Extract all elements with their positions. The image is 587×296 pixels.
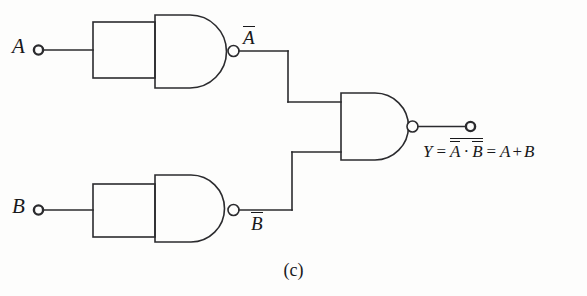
wire-label-not-a: A: [243, 26, 255, 47]
output-expression-plus: +: [513, 142, 523, 161]
figure-caption: (c): [0, 261, 587, 279]
wire-label-not-b-text: B: [251, 212, 263, 233]
input-terminal-a[interactable]: [34, 45, 43, 54]
output-expression-nand-term: A·B: [450, 138, 482, 160]
output-expression-equals-2: =: [487, 142, 497, 161]
output-expression-y: Y: [423, 142, 432, 161]
input-label-b: B: [12, 196, 25, 217]
wire-label-not-a-text: A: [243, 26, 255, 47]
nand-gate-top-body: [155, 15, 226, 88]
output-expression-dot: ·: [463, 142, 469, 161]
input-terminal-b[interactable]: [34, 205, 43, 214]
output-terminal-y[interactable]: [466, 122, 475, 131]
wire-label-not-b: B: [251, 212, 263, 233]
figure-canvas: A B A B Y=A·B=A+B (c): [0, 0, 587, 296]
output-expression-not-a: A: [450, 141, 460, 160]
output-expression-not-b: B: [472, 141, 482, 160]
output-expression-result-b: B: [524, 142, 534, 161]
output-expression: Y=A·B=A+B: [423, 138, 534, 160]
nand-gate-top-bubble: [228, 46, 239, 57]
input-label-a: A: [12, 36, 25, 57]
bottom-gate-input-short-bar: [93, 184, 155, 237]
output-expression-result-a: A: [500, 142, 510, 161]
output-expression-equals-1: =: [436, 142, 446, 161]
top-gate-input-short-bar: [93, 22, 155, 78]
nand-gate-bottom-bubble: [228, 205, 239, 216]
nand-gate-output-body: [341, 93, 409, 160]
nand-gate-output-bubble: [407, 121, 418, 132]
nand-gate-bottom-body: [155, 175, 225, 242]
